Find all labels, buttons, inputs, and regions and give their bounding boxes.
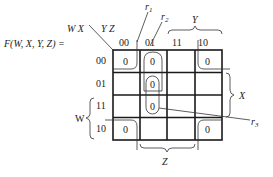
row-header-10: 10 bbox=[96, 123, 106, 134]
w-brace-label: W bbox=[75, 113, 85, 124]
x-brace bbox=[226, 73, 234, 117]
cell-00-10: 0 bbox=[205, 56, 210, 67]
karnaugh-map: F(W, X, Y, Z) = W X Y Z 00 01 11 10 00 0… bbox=[0, 0, 273, 177]
function-label: F(W, X, Y, Z) = bbox=[3, 38, 65, 50]
r3-label: r3 bbox=[251, 116, 259, 129]
y-brace bbox=[168, 26, 222, 34]
row-variables-label: W X bbox=[67, 23, 85, 34]
row-header-01: 01 bbox=[96, 78, 106, 89]
w-brace bbox=[86, 98, 94, 139]
cell-10-00: 0 bbox=[123, 124, 128, 135]
col-header-10: 10 bbox=[198, 37, 208, 48]
r1-label: r1 bbox=[145, 1, 152, 14]
col-header-11: 11 bbox=[172, 37, 182, 48]
cell-11-01: 0 bbox=[150, 101, 155, 112]
col-header-00: 00 bbox=[119, 37, 129, 48]
cell-00-00: 0 bbox=[123, 56, 128, 67]
cell-01-01: 0 bbox=[150, 79, 155, 90]
column-variables-label: Y Z bbox=[101, 23, 115, 34]
cell-10-10: 0 bbox=[205, 124, 210, 135]
y-brace-label: Y bbox=[192, 14, 199, 25]
z-brace-label: Z bbox=[162, 156, 168, 167]
cell-00-01: 0 bbox=[150, 56, 155, 67]
row-header-11: 11 bbox=[96, 100, 106, 111]
r2-leader bbox=[150, 22, 162, 46]
r2-label: r2 bbox=[161, 11, 169, 24]
x-brace-label: X bbox=[238, 90, 246, 101]
z-brace bbox=[140, 144, 195, 152]
row-header-00: 00 bbox=[96, 55, 106, 66]
